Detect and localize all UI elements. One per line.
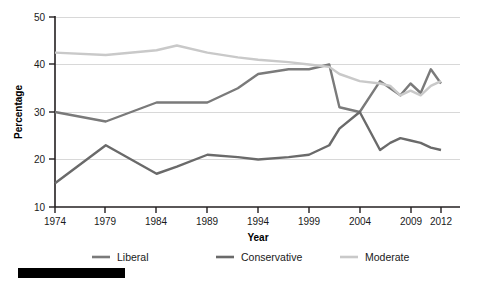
x-axis-title: Year [247, 232, 268, 243]
legend: Liberal Conservative Moderate [92, 251, 410, 263]
legend-label-moderate[interactable]: Moderate [365, 251, 410, 263]
y-tick-label-40: 40 [34, 59, 46, 70]
y-axis-tick-labels: 50 40 30 20 10 [34, 12, 46, 213]
y-tick-label-50: 50 [34, 12, 46, 23]
x-axis-tick-labels: 1974 1979 1984 1989 1994 1999 2004 2009 … [44, 216, 453, 227]
footer-black-bar [18, 268, 125, 278]
y-tick-label-10: 10 [34, 202, 46, 213]
series-paths [55, 46, 441, 184]
x-tick-label-2004: 2004 [349, 216, 372, 227]
legend-label-conservative[interactable]: Conservative [241, 251, 302, 263]
x-tick-label-1974: 1974 [44, 216, 67, 227]
y-axis-title: Percentage [13, 85, 24, 139]
chart-container: 50 40 30 20 10 1974 1979 1984 1989 1994 … [0, 0, 482, 281]
series-line-moderate [55, 46, 441, 96]
line-chart: 50 40 30 20 10 1974 1979 1984 1989 1994 … [0, 0, 482, 281]
series-line-conservative [55, 112, 441, 183]
x-tick-label-1979: 1979 [94, 216, 117, 227]
series-line-liberal [55, 65, 441, 122]
x-tick-label-1989: 1989 [196, 216, 219, 227]
x-tick-label-2009: 2009 [400, 216, 423, 227]
x-tick-label-2012: 2012 [430, 216, 453, 227]
y-axis-ticks [49, 17, 55, 207]
legend-label-liberal[interactable]: Liberal [117, 251, 149, 263]
x-tick-label-1999: 1999 [298, 216, 321, 227]
x-tick-label-1984: 1984 [145, 216, 168, 227]
y-tick-label-20: 20 [34, 154, 46, 165]
x-axis-ticks [55, 207, 441, 213]
y-tick-label-30: 30 [34, 107, 46, 118]
x-tick-label-1994: 1994 [247, 216, 270, 227]
